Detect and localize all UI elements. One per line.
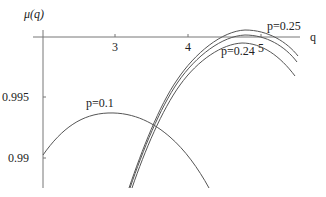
y-axis-title: μ(q)	[23, 7, 44, 21]
chart: 3 4 5 0.995 0.99 μ(q) q p=0.1 p=0.24 p=0…	[0, 0, 326, 197]
curve-label-p-0-25: p=0.25	[267, 19, 301, 33]
y-tick-label-099: 0.99	[8, 151, 29, 165]
curve-label-p-0-24: p=0.24	[221, 44, 255, 58]
x-axis-title: q	[310, 30, 316, 44]
curve-p-0-24	[132, 43, 295, 188]
x-tick-label-3: 3	[112, 40, 118, 54]
curve-p-0-1	[43, 113, 209, 188]
x-tick-label-4: 4	[185, 40, 191, 54]
curve-label-p-0-1: p=0.1	[86, 96, 114, 110]
y-tick-label-0995: 0.995	[2, 90, 29, 104]
curve-intermediate	[130, 35, 297, 188]
